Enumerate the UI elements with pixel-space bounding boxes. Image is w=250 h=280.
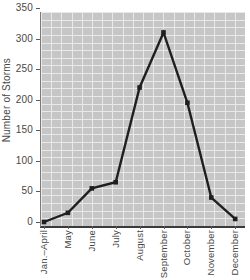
x-tick-mark	[92, 226, 93, 229]
y-tick-mark	[36, 130, 40, 131]
storms-line-chart: Number of Storms 050100150200250300350Ja…	[0, 0, 250, 280]
y-tick-label: 0	[3, 216, 33, 228]
y-tick-label: 200	[3, 94, 33, 106]
x-tick-mark	[116, 226, 117, 229]
y-tick-label: 300	[3, 33, 33, 45]
x-tick-mark	[211, 226, 212, 229]
x-category-label: May	[61, 230, 74, 249]
x-category-label: July	[109, 230, 122, 248]
y-tick-label: 50	[3, 185, 33, 197]
x-tick-mark	[44, 226, 45, 229]
x-tick-mark	[235, 226, 236, 229]
x-category-label: October	[180, 230, 193, 265]
y-tick-label: 250	[3, 63, 33, 75]
x-category-label: September	[157, 230, 170, 278]
y-tick-label: 350	[3, 2, 33, 14]
plot-area	[40, 12, 245, 228]
y-tick-mark	[36, 222, 40, 223]
y-tick-mark	[36, 8, 40, 9]
y-tick-label: 100	[3, 155, 33, 167]
x-category-label: August	[133, 230, 146, 261]
x-category-label: December	[228, 230, 241, 275]
y-tick-mark	[36, 191, 40, 192]
x-tick-mark	[68, 226, 69, 229]
x-tick-mark	[164, 226, 165, 229]
x-tick-mark	[187, 226, 188, 229]
x-category-label: June	[85, 230, 98, 251]
x-category-label: Jan.–April	[37, 230, 50, 274]
x-category-label: November	[204, 230, 217, 275]
y-tick-mark	[36, 69, 40, 70]
y-tick-mark	[36, 39, 40, 40]
y-tick-mark	[36, 100, 40, 101]
y-tick-mark	[36, 161, 40, 162]
x-tick-mark	[140, 226, 141, 229]
y-tick-label: 150	[3, 124, 33, 136]
